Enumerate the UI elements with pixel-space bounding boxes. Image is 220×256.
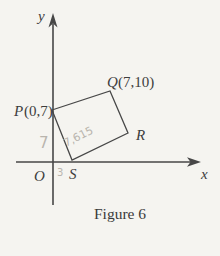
vertex-q-coords: (7,10) bbox=[118, 74, 154, 91]
figure-caption: Figure 6 bbox=[94, 205, 146, 222]
pencil-three-mark: 3 bbox=[57, 167, 63, 178]
coordinate-plane-figure: y x O P (0,7) Q (7,10) R S 7,615 7 3 Fig… bbox=[0, 0, 220, 256]
vertex-p-label: P bbox=[13, 103, 23, 119]
pencil-seven-mark: 7 bbox=[39, 134, 49, 152]
vertex-p-coords: (0,7) bbox=[24, 103, 53, 120]
figure-6-diagram: y x O P (0,7) Q (7,10) R S 7,615 7 3 Fig… bbox=[0, 0, 220, 256]
y-axis-label: y bbox=[36, 8, 45, 24]
vertex-q-label: Q bbox=[107, 74, 118, 90]
x-axis-label: x bbox=[200, 166, 208, 182]
vertex-s-label: S bbox=[69, 166, 77, 182]
pencil-side-length-note: 7,615 bbox=[61, 124, 95, 150]
origin-label: O bbox=[34, 168, 45, 184]
vertex-r-label: R bbox=[135, 127, 145, 143]
